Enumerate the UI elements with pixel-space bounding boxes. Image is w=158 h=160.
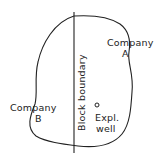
block-boundary-label: Block boundary: [76, 54, 87, 131]
exploration-well-label-line1: Expl.: [95, 112, 119, 123]
company-b-label-line2: B: [35, 113, 42, 124]
company-a-label-line1: Company: [107, 37, 154, 48]
exploration-well-label-line2: well: [96, 123, 116, 134]
field-diagram: Company A Company B Block boundary Expl.…: [0, 0, 158, 160]
exploration-well-marker: [95, 103, 99, 107]
company-a-label-line2: A: [122, 48, 129, 59]
company-b-label-line1: Company: [10, 102, 57, 113]
